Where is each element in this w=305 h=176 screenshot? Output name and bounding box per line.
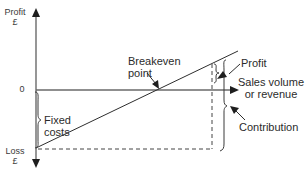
profit-axis-text: Profit xyxy=(2,7,28,17)
breakeven-label: Breakeven point xyxy=(128,55,181,79)
breakeven-line2: point xyxy=(128,67,181,79)
fixed-costs-label: Fixed costs xyxy=(44,114,71,138)
x-axis-label-line2: or revenue xyxy=(237,88,305,100)
breakeven-line1: Breakeven xyxy=(128,55,181,67)
profit-label: Profit xyxy=(241,57,267,69)
loss-currency-text: £ xyxy=(3,156,27,166)
profit-pointer xyxy=(229,64,240,74)
contribution-label: Contribution xyxy=(239,121,298,133)
x-axis-label-line1: Sales volume xyxy=(237,76,305,88)
breakeven-diagram: Profit £ 0 Loss £ Fixed costs Breakeven … xyxy=(0,0,305,176)
y-axis-down-arrow-icon xyxy=(32,159,40,168)
breakeven-arrow-icon xyxy=(152,80,159,89)
y-axis-loss-label: Loss £ xyxy=(3,146,27,166)
profit-brace xyxy=(214,64,219,83)
y-axis-zero-label: 0 xyxy=(16,84,28,94)
y-axis-profit-label: Profit £ xyxy=(2,7,28,27)
profit-arrow-icon xyxy=(217,71,227,79)
x-axis-label: Sales volume or revenue xyxy=(237,76,305,100)
fixed-costs-line2: costs xyxy=(44,126,71,138)
contribution-pointer xyxy=(236,111,245,120)
profit-currency-text: £ xyxy=(2,17,28,27)
fixed-costs-line1: Fixed xyxy=(44,114,71,126)
y-axis-up-arrow-icon xyxy=(32,8,40,17)
loss-axis-text: Loss xyxy=(3,146,27,156)
